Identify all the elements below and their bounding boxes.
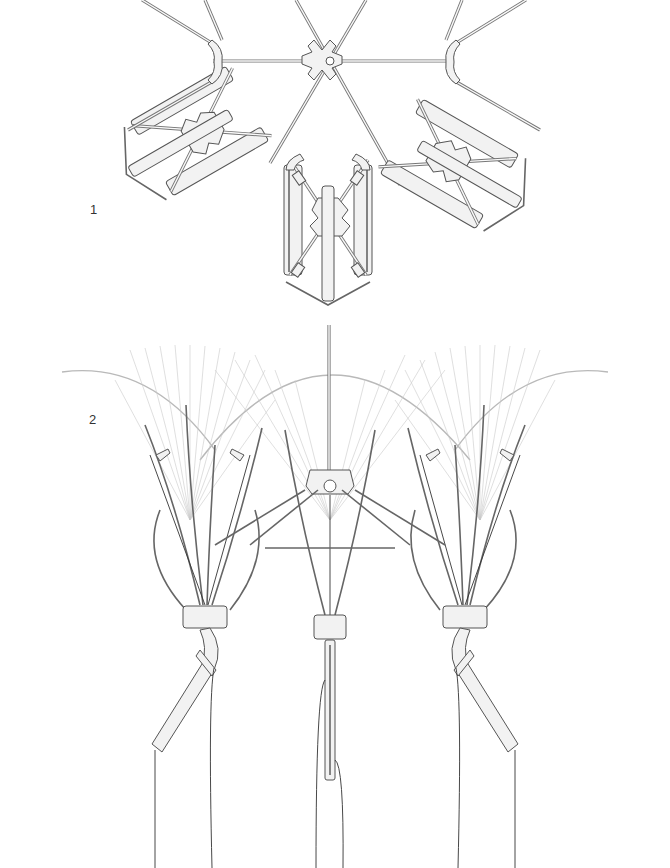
figure-2-front-view bbox=[62, 325, 608, 868]
mechanism-drawing bbox=[0, 0, 670, 868]
clamp-left bbox=[183, 606, 227, 628]
arm-assembly-left bbox=[104, 64, 273, 211]
sweep-arc-right bbox=[455, 371, 608, 450]
sweep-arc-center bbox=[200, 375, 470, 460]
string-left-2 bbox=[210, 668, 214, 868]
clamp-right bbox=[443, 606, 487, 628]
rib-cluster-left bbox=[145, 405, 262, 628]
arm-assembly-bottom bbox=[284, 154, 372, 305]
sweep-arc-left bbox=[62, 371, 215, 450]
handle-center bbox=[316, 640, 343, 868]
figure-1-top-view bbox=[104, 0, 544, 305]
string-center-2 bbox=[335, 760, 343, 868]
handle-left bbox=[152, 628, 218, 868]
string-right-2 bbox=[456, 668, 460, 868]
clamp-center bbox=[314, 615, 346, 639]
rib-cluster-right bbox=[408, 405, 525, 628]
handle-right bbox=[452, 628, 518, 868]
central-hub bbox=[213, 0, 450, 185]
string-center-1 bbox=[316, 680, 325, 868]
